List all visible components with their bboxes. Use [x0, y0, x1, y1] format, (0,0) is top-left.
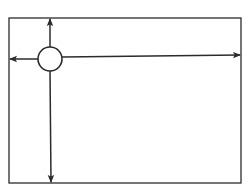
diagram-canvas	[0, 0, 251, 193]
diagram-svg	[0, 0, 251, 193]
frame-rectangle	[9, 18, 241, 183]
circle-node	[38, 47, 62, 71]
arrow-down	[50, 71, 51, 182]
arrow-right	[62, 55, 240, 57]
arrows-group	[10, 19, 240, 182]
